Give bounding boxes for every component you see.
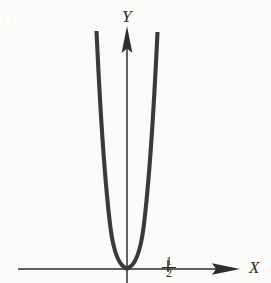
x-axis-arrowhead <box>212 263 240 275</box>
fraction-denominator: 2 <box>160 268 178 279</box>
plot-canvas <box>0 0 271 283</box>
parabola-figure: Y X 1 2 <box>0 0 271 283</box>
x-tick-label-one-half: 1 2 <box>160 256 178 279</box>
x-axis-label: X <box>249 259 259 276</box>
y-axis-label: Y <box>122 8 131 25</box>
